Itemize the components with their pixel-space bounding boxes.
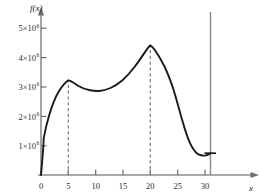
x-tick-label-15: 15: [119, 181, 128, 191]
y-tick-label-4-exponent: 6: [37, 52, 40, 58]
y-tick-label-5: 5×10: [18, 23, 36, 33]
y-tick-label-3-exponent: 6: [37, 81, 40, 87]
x-tick-label-30: 30: [201, 181, 210, 191]
x-tick-label-0: 0: [39, 181, 43, 191]
y-tick-label-3: 3×10: [18, 82, 36, 92]
y-tick-label-5-exponent: 6: [37, 23, 40, 29]
y-axis-title: f(x): [30, 3, 43, 13]
y-axis-tick-labels: 1×10 6 2×10 6 3×10 6 4×10 6 5×10 6: [18, 23, 39, 151]
x-axis: [38, 172, 259, 178]
y-tick-label-2-exponent: 6: [37, 111, 40, 117]
x-tick-label-20: 20: [146, 181, 155, 191]
x-axis-title: x: [248, 183, 253, 193]
x-tick-label-25: 25: [173, 181, 182, 191]
function-curve: [41, 45, 211, 175]
x-axis-ticks: [41, 170, 205, 176]
chart-plot-area: 1×10 6 2×10 6 3×10 6 4×10 6 5×10 6 0 5 1…: [0, 0, 266, 195]
x-tick-label-5: 5: [66, 181, 70, 191]
x-tick-label-10: 10: [91, 181, 100, 191]
y-tick-label-1-exponent: 6: [37, 140, 40, 146]
y-tick-label-4: 4×10: [18, 53, 36, 63]
x-axis-tick-labels: 0 5 10 15 20 25 30: [39, 181, 209, 191]
chart-figure: 1×10 6 2×10 6 3×10 6 4×10 6 5×10 6 0 5 1…: [0, 0, 266, 195]
y-tick-label-1: 1×10: [18, 141, 36, 151]
y-tick-label-2: 2×10: [18, 112, 36, 122]
